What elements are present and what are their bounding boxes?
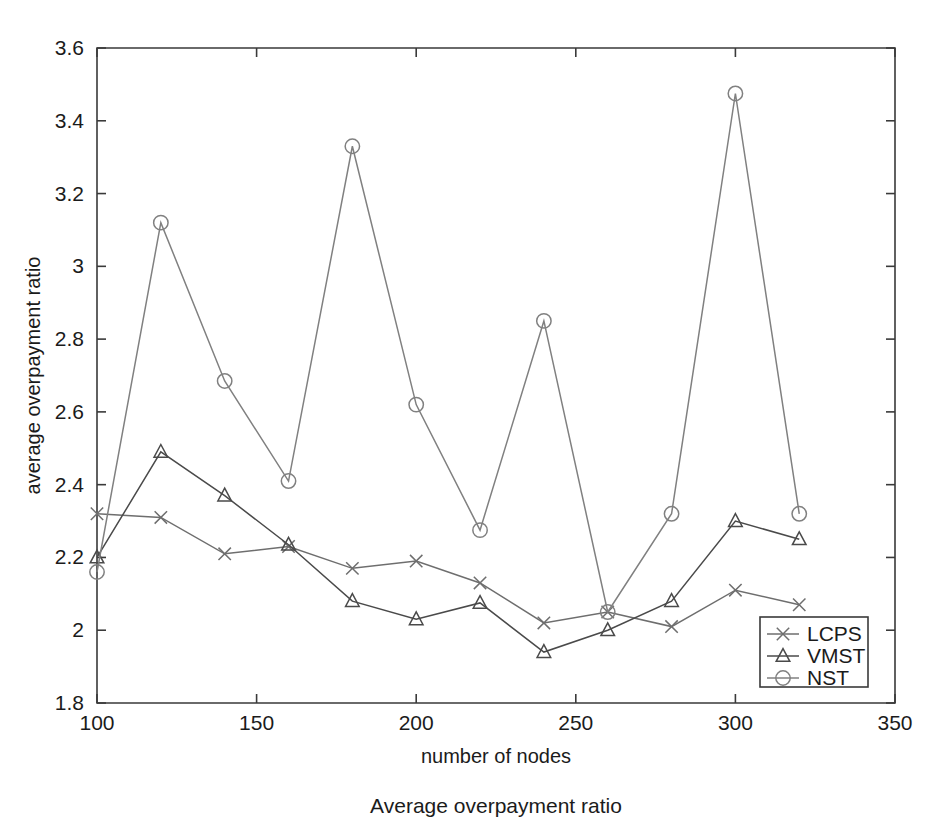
datapoint-lcps-280 — [665, 620, 677, 632]
figure-caption: Average overpayment ratio — [370, 794, 622, 817]
x-tick-label: 300 — [718, 711, 753, 734]
legend-label-nst: NST — [807, 666, 849, 689]
datapoint-vmst-260 — [601, 623, 615, 636]
legend-label-vmst: VMST — [807, 644, 866, 667]
datapoint-lcps-300 — [729, 584, 741, 596]
y-tick-label: 3.6 — [55, 36, 84, 59]
datapoint-lcps-320 — [793, 599, 805, 611]
series-lcps — [91, 508, 806, 633]
series-path-vmst — [97, 452, 799, 652]
series-vmst — [90, 445, 806, 658]
legend-label-lcps: LCPS — [807, 622, 862, 645]
plot-frame — [97, 48, 895, 703]
series-path-nst — [97, 93, 799, 612]
y-tick-label: 2.6 — [55, 400, 84, 423]
overpayment-ratio-line-chart: 1001502002503003501.822.22.42.62.833.23.… — [0, 0, 946, 820]
y-tick-label: 2.8 — [55, 327, 84, 350]
y-tick-label: 3.4 — [55, 109, 85, 132]
datapoint-vmst-180 — [346, 594, 360, 607]
chart-figure: 1001502002503003501.822.22.42.62.833.23.… — [0, 0, 946, 820]
y-tick-label: 3.2 — [55, 182, 84, 205]
datapoint-vmst-300 — [729, 514, 743, 527]
series-layer — [90, 86, 807, 657]
series-path-lcps — [97, 514, 799, 627]
x-axis-title: number of nodes — [421, 745, 571, 767]
y-tick-label: 2.2 — [55, 545, 84, 568]
x-tick-label: 150 — [239, 711, 274, 734]
series-nst — [90, 86, 807, 619]
x-tick-label: 250 — [558, 711, 593, 734]
y-tick-label: 2 — [72, 618, 84, 641]
datapoint-lcps-220 — [474, 577, 486, 589]
legend-layer[interactable]: LCPSVMSTNST — [760, 617, 868, 689]
y-tick-label: 3 — [72, 254, 84, 277]
x-tick-label: 200 — [399, 711, 434, 734]
y-tick-label: 2.4 — [55, 473, 85, 496]
x-tick-label: 350 — [877, 711, 912, 734]
x-tick-label: 100 — [79, 711, 114, 734]
y-axis-title: average overpayment ratio — [22, 257, 44, 495]
y-tick-label: 1.8 — [55, 691, 84, 714]
